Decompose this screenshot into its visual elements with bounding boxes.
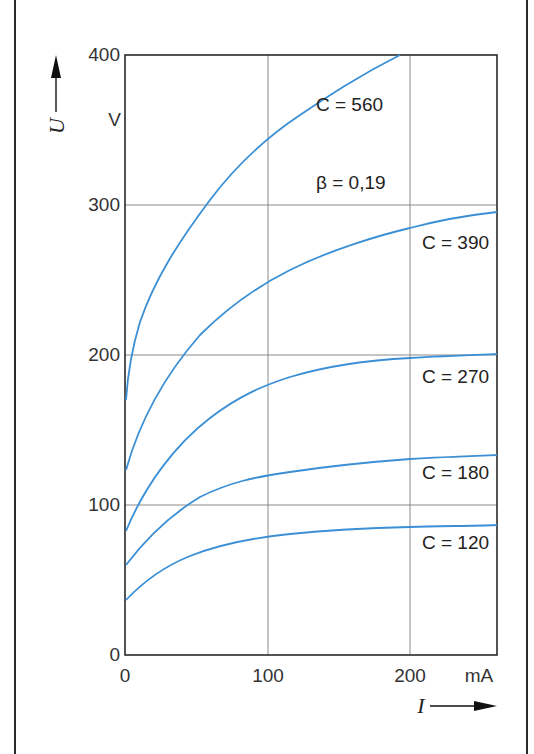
y-axis-symbol: U [44,116,69,134]
label-c390: C = 390 [422,232,489,253]
curves [126,55,497,600]
y-unit-label: V [108,109,121,130]
ytick-300: 300 [88,194,120,215]
label-c180: C = 180 [422,462,489,483]
ytick-200: 200 [88,344,120,365]
x-tick-labels: 0 100 200 [120,665,426,686]
x-axis-symbol: I [416,693,426,718]
arrow-right-icon [474,701,497,711]
label-beta: β = 0,19 [316,172,386,193]
label-c560: C = 560 [316,94,383,115]
chart: 400 300 200 100 0 V 0 100 200 mA U I C =… [0,0,534,754]
y-tick-labels: 400 300 200 100 0 [88,44,120,665]
y-axis-arrow [51,55,61,112]
xtick-200: 200 [394,665,426,686]
xtick-100: 100 [252,665,284,686]
arrow-up-icon [51,55,61,78]
label-c270: C = 270 [422,366,489,387]
gridlines [125,55,497,655]
label-c120: C = 120 [422,532,489,553]
x-unit-label: mA [465,665,494,686]
curve-labels: C = 560 β = 0,19 C = 390 C = 270 C = 180… [316,94,489,553]
ytick-0: 0 [109,644,120,665]
ytick-100: 100 [88,494,120,515]
x-axis-arrow [430,701,497,711]
xtick-0: 0 [120,665,131,686]
ytick-400: 400 [88,44,120,65]
